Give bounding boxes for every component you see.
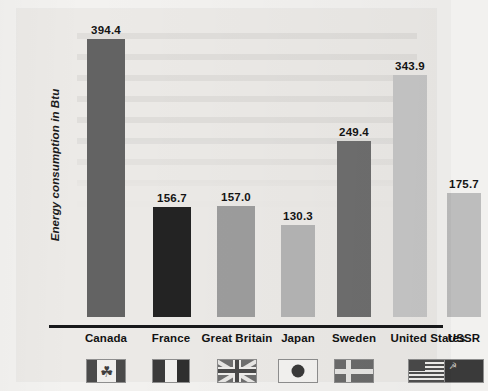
bar [393,75,427,317]
bar [153,207,191,317]
japan-flag [271,359,325,383]
sweden-flag [321,359,387,383]
bar-value-label: 394.4 [91,24,121,36]
plot-area: 394.4156.7157.0130.3249.4343.9175.7 [55,21,428,317]
bar [217,206,255,317]
bar [337,141,371,317]
canada-flag: ☘ [75,359,137,383]
bar-value-label: 156.7 [157,192,187,204]
bar-group: 156.7 [153,192,191,317]
bar-group: 157.0 [217,191,255,317]
bar-group: 130.3 [281,210,315,317]
bar-value-label: 343.9 [395,60,425,72]
category-label: France [139,332,203,344]
category-label: Japan [271,332,325,344]
bar [87,39,125,317]
bar-value-label: 249.4 [339,126,369,138]
bar-value-label: 157.0 [221,191,251,203]
category-label: Canada [75,332,137,344]
bar-value-label: 130.3 [283,210,313,222]
category-labels-row: CanadaFranceGreat BritainJapanSwedenUnit… [55,332,428,352]
category-label: Sweden [321,332,387,344]
bar-group: 343.9 [393,60,427,317]
ussr-flag: ☭ [433,359,488,383]
x-axis-baseline [49,325,443,328]
chart-panel: Energy consumption in Btu 394.4156.7157.… [17,9,436,381]
france-flag [139,359,203,383]
category-label: USSR [433,332,488,344]
flag-icons-row: ☘☭ [55,359,428,389]
bar-group: 175.7 [447,178,481,317]
bar-value-label: 175.7 [449,178,479,190]
bar-group: 394.4 [87,24,125,317]
category-label: Great Britain [195,332,279,344]
bar-group: 249.4 [337,126,371,317]
bar [281,225,315,317]
great-britain-flag [195,359,279,383]
bar [447,193,481,317]
